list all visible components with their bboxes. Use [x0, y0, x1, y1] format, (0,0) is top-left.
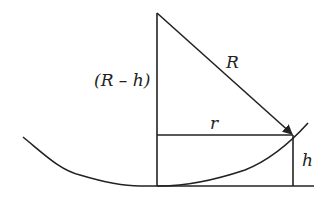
label-half-chord: r: [210, 113, 219, 133]
curved-surface: [23, 123, 308, 186]
label-sag: h: [302, 150, 313, 170]
sagitta-diagram: R (R – h) r h: [0, 0, 329, 198]
label-radius: R: [225, 52, 239, 72]
radius-arrow: [157, 13, 292, 134]
label-center-height: (R – h): [94, 70, 150, 90]
